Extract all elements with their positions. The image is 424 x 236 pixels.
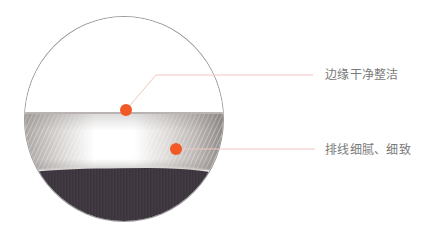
detail-callout-figure: 边缘干净整洁 排线细腻、细致: [0, 0, 424, 236]
magnified-detail-circle: [24, 16, 224, 222]
marker-dot-icon: [120, 104, 132, 116]
callout-label-edge: 边缘干净整洁: [325, 68, 399, 82]
background-area: [25, 17, 223, 113]
marker-dot-icon: [170, 143, 182, 155]
fabric-area: [24, 168, 224, 222]
callout-label-stitching: 排线细腻、细致: [325, 143, 411, 157]
metal-band-shading: [25, 114, 223, 170]
